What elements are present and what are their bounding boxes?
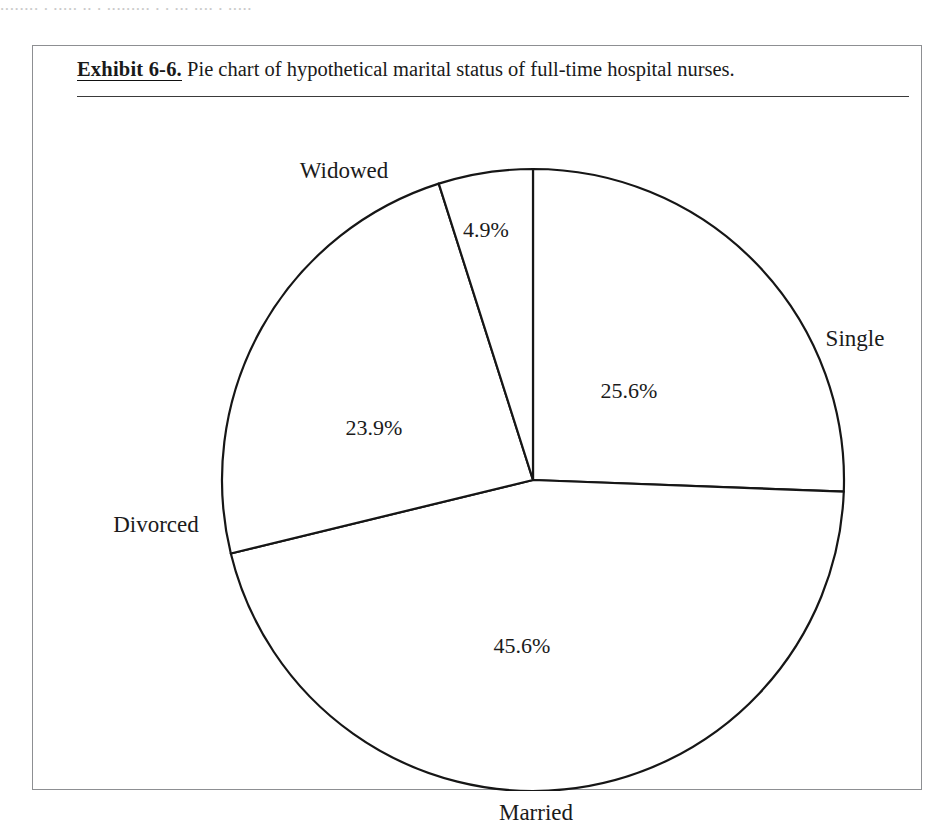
slice-value-single: 25.6% <box>601 380 658 402</box>
slice-value-widowed: 4.9% <box>463 219 509 241</box>
pie-chart: Single Married Divorced Widowed 25.6% 45… <box>33 46 923 791</box>
slice-value-married: 45.6% <box>494 635 551 657</box>
page-bleed-text: ........ . ..... .. . ......... . . ... … <box>0 0 947 14</box>
pie-slice-single <box>533 169 844 492</box>
exhibit-frame: Exhibit 6-6. Pie chart of hypothetical m… <box>32 45 922 790</box>
pie-chart-svg <box>33 46 923 791</box>
slice-value-divorced: 23.9% <box>346 417 403 439</box>
slice-name-married: Married <box>499 801 573 824</box>
slice-name-divorced: Divorced <box>113 513 199 536</box>
slice-name-single: Single <box>826 327 885 350</box>
slice-name-widowed: Widowed <box>300 159 389 182</box>
